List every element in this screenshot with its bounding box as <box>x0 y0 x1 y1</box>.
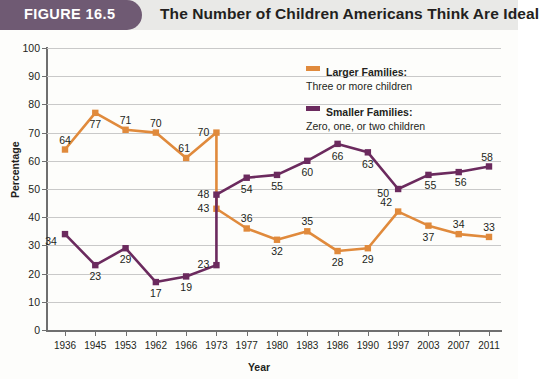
data-point-label: 58 <box>469 151 505 163</box>
legend-sub-larger: Three or more children <box>306 80 425 93</box>
data-point-marker <box>334 248 340 254</box>
data-point-label: 34 <box>33 235 69 247</box>
data-point-label: 23 <box>77 270 113 282</box>
data-point-marker <box>425 172 431 178</box>
data-point-label: 37 <box>410 231 446 243</box>
data-point-label: 32 <box>259 245 295 257</box>
data-point-label: 70 <box>138 117 174 129</box>
data-point-marker <box>274 237 280 243</box>
legend-swatch-smaller-families <box>306 106 320 111</box>
legend-title-larger: Larger Families: <box>326 66 407 78</box>
data-point-marker <box>456 231 462 237</box>
data-point-marker <box>153 129 159 135</box>
data-point-marker <box>456 169 462 175</box>
data-point-label: 60 <box>289 166 325 178</box>
data-point-label: 50 <box>365 187 401 199</box>
data-point-marker <box>183 155 189 161</box>
data-point-marker <box>365 149 371 155</box>
data-point-label: 48 <box>185 188 221 200</box>
legend-swatch-larger-families <box>306 66 320 71</box>
legend-label-larger-families: Larger Families: Three or more children <box>306 66 425 93</box>
legend-item-larger-families: Larger Families: Three or more children <box>306 62 425 93</box>
data-point-label: 61 <box>166 142 202 154</box>
data-point-marker <box>244 175 250 181</box>
legend: Larger Families: Three or more children … <box>306 62 425 141</box>
legend-title-smaller: Smaller Families: <box>326 106 412 118</box>
data-point-label: 33 <box>471 221 507 233</box>
data-point-label: 63 <box>350 158 386 170</box>
data-point-marker <box>365 245 371 251</box>
data-point-label: 70 <box>185 126 221 138</box>
data-point-marker <box>62 146 68 152</box>
legend-label-smaller-families: Smaller Families: Zero, one, or two chil… <box>306 106 425 133</box>
data-point-label: 19 <box>168 281 204 293</box>
data-point-marker <box>334 141 340 147</box>
data-point-label: 43 <box>185 202 221 214</box>
data-point-marker <box>153 279 159 285</box>
data-point-label: 35 <box>289 215 325 227</box>
data-point-marker <box>122 127 128 133</box>
legend-item-smaller-families: Smaller Families: Zero, one, or two chil… <box>306 102 425 133</box>
data-point-marker <box>92 110 98 116</box>
data-point-marker <box>92 262 98 268</box>
data-point-label: 55 <box>259 180 295 192</box>
data-point-marker <box>183 273 189 279</box>
data-point-label: 56 <box>443 176 479 188</box>
data-point-label: 23 <box>185 258 221 270</box>
legend-sub-smaller: Zero, one, or two children <box>306 120 425 133</box>
data-point-label: 29 <box>108 253 144 265</box>
data-point-marker <box>425 222 431 228</box>
data-point-marker <box>244 225 250 231</box>
data-point-label: 36 <box>229 212 265 224</box>
data-point-marker <box>486 234 492 240</box>
data-point-label: 64 <box>47 134 83 146</box>
data-point-marker <box>395 208 401 214</box>
data-point-marker <box>486 163 492 169</box>
data-point-marker <box>122 245 128 251</box>
data-point-label: 29 <box>350 253 386 265</box>
data-point-marker <box>304 228 310 234</box>
data-point-marker <box>304 158 310 164</box>
data-point-marker <box>274 172 280 178</box>
